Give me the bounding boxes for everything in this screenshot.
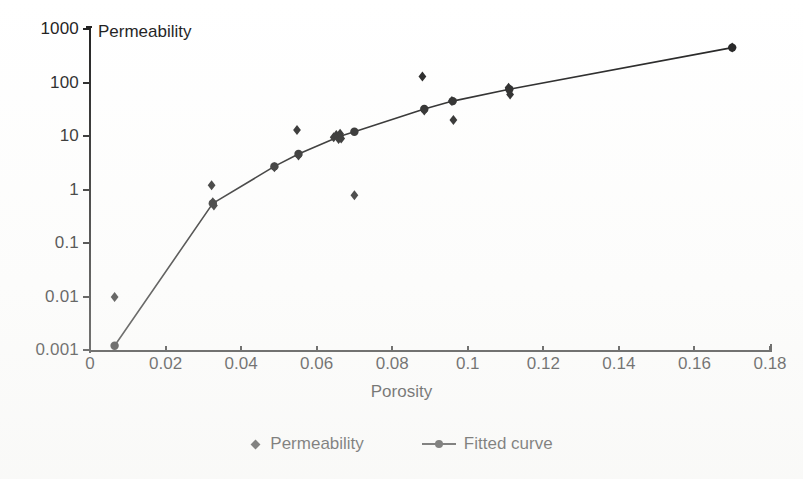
y-tick-mark: [83, 82, 90, 84]
y-tick-mark: [83, 28, 90, 30]
legend-entry-fitted-curve: Fitted curve: [422, 434, 553, 454]
permeability-data-point: [506, 89, 514, 99]
diamond-marker-icon: [250, 437, 262, 451]
x-axis-title: Porosity: [0, 382, 803, 402]
fitted-curve-point: [270, 162, 278, 170]
x-tick-label: 0.18: [740, 355, 800, 373]
x-tick-mark: [316, 346, 318, 352]
x-tick-label: 0.14: [589, 355, 649, 373]
permeability-data-point: [111, 292, 119, 302]
x-tick-label: 0.1: [438, 355, 498, 373]
legend-label-fitted-curve: Fitted curve: [464, 434, 553, 454]
permeability-data-point: [293, 125, 301, 135]
x-tick-mark: [467, 346, 469, 352]
permeability-data-point: [336, 129, 344, 139]
fitted-curve-point: [209, 199, 217, 207]
permeability-scatter-series: [111, 43, 736, 302]
y-tick-label: 0.1: [0, 234, 79, 251]
permeability-data-point: [271, 162, 279, 172]
permeability-data-point: [505, 83, 513, 93]
x-tick-mark: [769, 346, 771, 352]
fitted-curve-series: [110, 43, 736, 350]
permeability-data-point: [450, 115, 458, 125]
y-tick-label: 1: [0, 181, 79, 198]
fitted-curve-point: [505, 85, 513, 93]
permeability-data-point: [210, 201, 218, 211]
permeability-data-point: [448, 96, 456, 106]
fitted-curve-point: [728, 43, 736, 51]
fitted-curve-point: [350, 128, 358, 136]
x-tick-label: 0.16: [664, 355, 724, 373]
y-tick-mark: [83, 135, 90, 137]
x-tick-mark: [89, 346, 91, 352]
x-axis-line: [89, 350, 772, 352]
x-tick-label: 0.02: [136, 355, 196, 373]
permeability-data-point: [337, 133, 345, 143]
permeability-data-point: [208, 180, 216, 190]
x-tick-label: 0: [60, 355, 120, 373]
legend-label-permeability: Permeability: [270, 434, 364, 454]
x-tick-mark: [165, 346, 167, 352]
y-tick-mark: [83, 189, 90, 191]
x-tick-mark: [240, 346, 242, 352]
line-with-dot-icon: [422, 437, 456, 451]
fitted-curve-point: [420, 105, 428, 113]
y-tick-mark: [83, 242, 90, 244]
fitted-curve-point: [294, 150, 302, 158]
fitted-curve-point: [449, 97, 457, 105]
permeability-data-point: [728, 43, 736, 53]
y-tick-label: 1000: [0, 20, 79, 37]
permeability-data-point: [332, 130, 340, 140]
permeability-data-point: [330, 132, 338, 142]
legend-entry-permeability: Permeability: [250, 434, 364, 454]
y-tick-label: 100: [0, 74, 79, 91]
permeability-data-point: [209, 197, 217, 207]
permeability-data-point: [335, 134, 343, 144]
x-tick-label: 0.04: [211, 355, 271, 373]
permeability-data-point: [351, 190, 359, 200]
x-tick-label: 0.06: [287, 355, 347, 373]
x-tick-mark: [618, 346, 620, 352]
scan-paper-tint: [0, 0, 803, 479]
chart-series-layer: [0, 0, 803, 479]
y-tick-label: 10: [0, 127, 79, 144]
x-tick-mark: [542, 346, 544, 352]
permeability-porosity-chart: 10001001010.10.010.001 00.020.040.060.08…: [0, 0, 803, 479]
permeability-data-point: [419, 71, 427, 81]
x-tick-mark: [693, 346, 695, 352]
permeability-data-point: [420, 106, 428, 116]
y-axis-title: Permeability: [98, 22, 192, 42]
x-tick-mark: [391, 346, 393, 352]
y-tick-mark: [83, 296, 90, 298]
x-tick-label: 0.08: [362, 355, 422, 373]
fitted-curve-point: [335, 132, 343, 140]
y-tick-label: 0.01: [0, 288, 79, 305]
fitted-curve-point: [110, 342, 118, 350]
fitted-curve-line: [115, 48, 733, 346]
x-tick-label: 0.12: [513, 355, 573, 373]
chart-legend: Permeability Fitted curve: [0, 434, 803, 454]
permeability-data-point: [295, 151, 303, 161]
